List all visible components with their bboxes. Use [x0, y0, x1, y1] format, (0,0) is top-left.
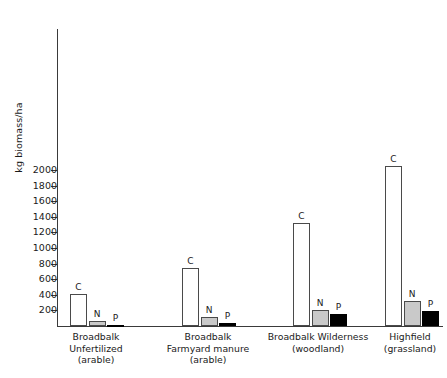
y-tick-label: 2000: [11, 165, 57, 175]
y-axis-line: [57, 29, 58, 327]
bar-broadbalk-wilderness-n: [312, 310, 329, 326]
bar-broadbalk-wilderness-c: [293, 223, 310, 326]
bar-value-label: P: [324, 303, 353, 312]
bar-highfield-c: [385, 166, 402, 326]
y-tick-label: 1000: [11, 243, 57, 253]
y-tick-label: 1800: [11, 181, 57, 191]
bar-value-label: C: [176, 257, 205, 266]
bar-value-label: P: [213, 312, 242, 321]
y-tick-label: 1400: [11, 212, 57, 222]
category-label-highfield: Highfield(grassland): [364, 331, 447, 354]
category-label-line: (arable): [143, 354, 273, 366]
bar-value-label: C: [287, 212, 316, 221]
bar-value-label: P: [101, 314, 130, 323]
bar-highfield-p: [422, 311, 439, 326]
bar-value-label: C: [64, 283, 93, 292]
category-label-line: Highfield: [364, 331, 447, 343]
category-label-broadbalk-unfertilized: BroadbalkUnfertilized(arable): [40, 331, 152, 366]
category-label-line: Unfertilized: [40, 343, 152, 355]
bar-broadbalk-wilderness-p: [330, 314, 347, 326]
category-label-line: (arable): [40, 354, 152, 366]
bar-chart: kg biomass/ha 20040060080010001200140016…: [0, 0, 447, 378]
bar-broadbalk-farmyard-manure-c: [182, 268, 199, 326]
y-tick-label: 1200: [11, 227, 57, 237]
y-tick-label: 400: [11, 290, 57, 300]
category-label-line: Broadbalk: [40, 331, 152, 343]
y-tick-label: 1600: [11, 196, 57, 206]
bar-broadbalk-farmyard-manure-p: [219, 323, 236, 326]
y-axis-label: kg biomass/ha: [13, 78, 24, 198]
category-label-line: (grassland): [364, 343, 447, 355]
bar-value-label: N: [398, 290, 427, 299]
y-tick-label: 800: [11, 259, 57, 269]
bar-broadbalk-unfertilized-p: [107, 325, 124, 327]
y-tick-label: 200: [11, 305, 57, 315]
bar-value-label: P: [416, 300, 445, 309]
y-tick-label: 600: [11, 274, 57, 284]
bar-value-label: C: [379, 155, 408, 164]
